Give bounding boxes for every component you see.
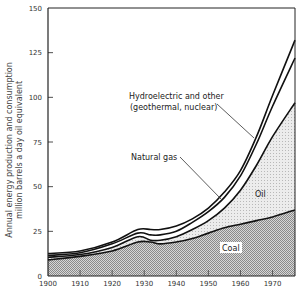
y-tick-label: 75 xyxy=(33,139,42,147)
annotation-gas-label: Natural gas xyxy=(131,153,177,162)
x-tick-label: 1940 xyxy=(167,280,185,288)
y-tick-label: 25 xyxy=(33,228,42,236)
x-tick-label: 1900 xyxy=(39,280,57,288)
y-tick-label: 100 xyxy=(29,94,42,102)
x-tick-label: 1950 xyxy=(199,280,217,288)
annotation-hydro-line-2: (geothermal, nuclear) xyxy=(130,103,217,112)
y-tick-label: 150 xyxy=(29,5,42,13)
annotation-coal-label: Coal xyxy=(222,244,240,253)
annotation-gas-leader xyxy=(180,157,221,199)
x-tick-label: 1970 xyxy=(264,280,282,288)
x-tick-label: 1930 xyxy=(135,280,153,288)
x-tick-label: 1920 xyxy=(103,280,121,288)
annotation-hydro-leader xyxy=(217,104,254,138)
x-tick-label: 1960 xyxy=(232,280,250,288)
y-axis-label-line-2: million barrels a day oil equivalent xyxy=(15,81,24,219)
y-axis-label: Annual energy production and consumption… xyxy=(5,62,24,238)
y-axis-label-line-1: Annual energy production and consumption xyxy=(5,62,14,238)
energy-chart: 0255075100125150190019101920193019401950… xyxy=(0,0,299,290)
annotation-hydro-line-1: Hydroelectric and other xyxy=(129,92,225,101)
annotation-oil-label: Oil xyxy=(255,190,266,199)
x-tick-label: 1910 xyxy=(71,280,89,288)
y-tick-label: 50 xyxy=(33,183,42,191)
y-tick-label: 125 xyxy=(29,49,42,57)
